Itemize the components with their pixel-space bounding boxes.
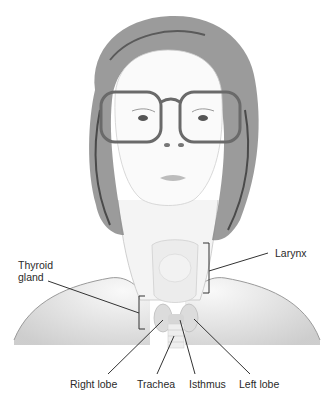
illustration (0, 0, 333, 402)
thyroid-anatomy-diagram: Thyroid gland Larynx Right lobe Trachea … (0, 0, 333, 402)
larynx-leader-line (209, 253, 268, 271)
trachea-label: Trachea (137, 378, 175, 390)
left-lobe-label: Left lobe (239, 378, 279, 390)
right-lobe-label: Right lobe (70, 378, 117, 390)
thyroid-gland-label-line1: Thyroid (18, 259, 53, 271)
thyroid-gland-label: Thyroid gland (18, 259, 53, 283)
isthmus-label: Isthmus (189, 378, 226, 390)
thyroid-gland-label-line2: gland (18, 271, 53, 283)
larynx-label: Larynx (275, 247, 307, 259)
trachea-leader-line (157, 336, 174, 374)
larynx-structure (152, 240, 198, 303)
